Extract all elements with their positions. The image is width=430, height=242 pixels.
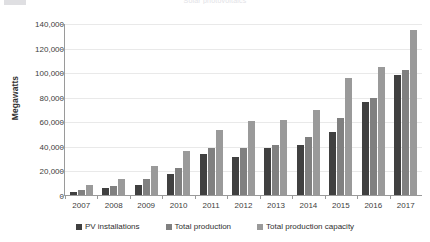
y-axis-tick-mark [61,171,64,172]
y-axis-tick-mark [61,73,64,74]
chart-container: Solar photovoltaics Megawatts 020,00040,… [0,0,430,242]
x-axis-tick-cell: 2017 [390,0,422,242]
legend-item[interactable]: Total production [166,222,231,231]
x-axis-tick-mark [65,196,66,199]
y-axis-tick-label: 100,000 [12,69,64,78]
x-axis-tick-label: 2013 [260,201,292,210]
x-axis-tick-mark [292,196,293,199]
x-axis-tick-label: 2010 [162,201,194,210]
x-axis-tick-mark [390,196,391,199]
y-axis-tick-mark [61,147,64,148]
x-axis-tick-labels: 2007200820092010201120122013201420152016… [65,0,422,242]
legend-swatch-icon [257,224,263,230]
x-axis-tick-mark [357,196,358,199]
x-axis-tick-cell: 2009 [130,0,162,242]
x-axis-tick-cell: 2013 [260,0,292,242]
y-axis-tick-label: 80,000 [12,93,64,102]
x-axis-tick-cell: 2007 [65,0,97,242]
legend-swatch-icon [166,224,172,230]
y-axis-tick-label: 120,000 [12,44,64,53]
x-axis-tick-cell: 2016 [357,0,389,242]
x-axis-tick-cell: 2014 [292,0,324,242]
y-axis-tick-mark [61,24,64,25]
x-axis-tick-mark [162,196,163,199]
x-axis-tick-mark [130,196,131,199]
x-axis-tick-label: 2017 [390,201,422,210]
y-axis-tick-label: 20,000 [12,167,64,176]
x-axis-tick-label: 2012 [227,201,259,210]
y-axis-tick-label: 40,000 [12,142,64,151]
x-axis-tick-label: 2016 [357,201,389,210]
x-axis-tick-cell: 2015 [325,0,357,242]
y-axis-tick-labels: 020,00040,00060,00080,000100,000120,0001… [8,24,64,196]
y-axis-tick-label: 0 [12,192,64,201]
legend-label: Total production capacity [266,222,354,231]
y-axis-tick-mark [61,196,64,197]
y-axis-tick-label: 60,000 [12,118,64,127]
x-axis-tick-mark [97,196,98,199]
x-axis-tick-label: 2007 [65,201,97,210]
legend-label: Total production [175,222,231,231]
y-axis-tick-label: 140,000 [12,20,64,29]
legend-swatch-icon [76,224,82,230]
y-axis-tick-mark [61,122,64,123]
x-axis-tick-label: 2014 [292,201,324,210]
x-axis-tick-mark [195,196,196,199]
x-axis-tick-cell: 2008 [97,0,129,242]
x-axis-tick-label: 2015 [325,201,357,210]
x-axis-tick-cell: 2011 [195,0,227,242]
legend-item[interactable]: PV installations [76,222,140,231]
x-axis-tick-label: 2009 [130,201,162,210]
y-axis-tick-mark [61,98,64,99]
legend-item[interactable]: Total production capacity [257,222,354,231]
legend-label: PV installations [85,222,140,231]
x-axis-tick-mark [325,196,326,199]
x-axis-tick-mark [260,196,261,199]
legend: PV installationsTotal productionTotal pr… [0,222,430,231]
x-axis-tick-label: 2008 [97,201,129,210]
x-axis-tick-mark [227,196,228,199]
x-axis-tick-cell: 2010 [162,0,194,242]
y-axis-tick-mark [61,49,64,50]
x-axis-tick-label: 2011 [195,201,227,210]
x-axis-tick-cell: 2012 [227,0,259,242]
